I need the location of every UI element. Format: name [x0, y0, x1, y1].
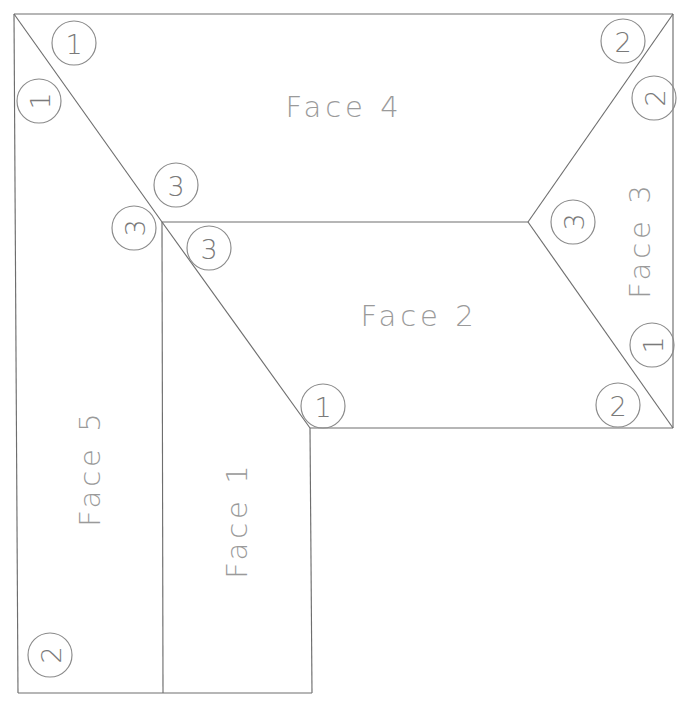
- marker-value: 2: [609, 391, 626, 422]
- marker-value: 1: [314, 392, 331, 423]
- marker-value: 1: [638, 336, 669, 353]
- marker-value: 1: [65, 29, 82, 60]
- marker-value: 2: [614, 27, 631, 58]
- face-label-face5: Face 5: [73, 409, 107, 526]
- marker-value: 3: [559, 213, 590, 230]
- marker-value: 2: [640, 89, 671, 106]
- marker-value: 3: [167, 171, 184, 202]
- face-label-face1: Face 1: [220, 461, 254, 578]
- face-label-face4: Face 4: [285, 90, 402, 124]
- net-diagram-svg: Face 4 Face 2 Face 3 Face 5 Face 1 1 1 3: [0, 0, 685, 706]
- marker-value: 3: [120, 219, 151, 236]
- marker-value: 3: [200, 234, 217, 265]
- marker-value: 1: [25, 92, 56, 109]
- face-label-face2: Face 2: [360, 299, 477, 333]
- marker-value: 2: [36, 646, 67, 663]
- diagram-canvas: Face 4 Face 2 Face 3 Face 5 Face 1 1 1 3: [0, 0, 685, 706]
- face-label-face3: Face 3: [623, 181, 657, 298]
